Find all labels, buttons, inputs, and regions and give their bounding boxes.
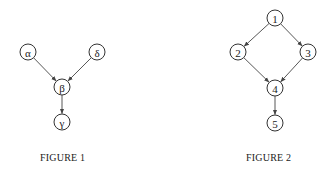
node-label: 3 <box>305 47 311 59</box>
node-n2: 2 <box>230 44 246 60</box>
node-n1: 1 <box>267 10 283 26</box>
edge-n2-to-n4 <box>244 58 269 82</box>
node-n4: 4 <box>267 80 283 96</box>
node-label: γ <box>59 117 65 129</box>
node-label: 5 <box>272 118 278 130</box>
figure-2-caption: FIGURE 2 <box>246 152 291 163</box>
node-label: 4 <box>272 83 278 95</box>
node-gamma: γ <box>54 114 70 130</box>
node-beta: β <box>54 79 70 95</box>
node-label: δ <box>94 47 99 59</box>
edge-n1-to-n2 <box>244 23 269 46</box>
figure-2-graph: 12345 <box>230 10 316 131</box>
diagram-canvas: αδβγ 12345 <box>0 0 335 170</box>
node-n5: 5 <box>267 115 283 131</box>
node-n3: 3 <box>300 44 316 60</box>
node-label: 2 <box>235 47 241 59</box>
figure-1-caption: FIGURE 1 <box>40 152 85 163</box>
edge-delta-to-beta <box>68 58 91 81</box>
node-label: 1 <box>272 13 278 25</box>
node-label: α <box>25 47 31 59</box>
node-delta: δ <box>89 44 105 60</box>
figure-1-graph: αδβγ <box>20 44 105 130</box>
node-alpha: α <box>20 44 36 60</box>
edge-n3-to-n4 <box>281 58 303 82</box>
edge-n1-to-n3 <box>281 24 303 46</box>
edge-alpha-to-beta <box>34 58 57 81</box>
node-label: β <box>59 82 65 94</box>
